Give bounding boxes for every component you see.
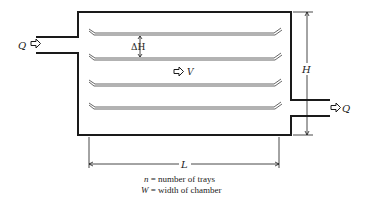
length-label: L <box>180 159 188 170</box>
height-label: H <box>301 64 311 75</box>
tray <box>89 28 282 35</box>
tray <box>89 53 282 60</box>
outflow-indicator: Q <box>331 103 350 114</box>
trays <box>89 28 282 109</box>
inflow-indicator: Q <box>18 39 41 51</box>
velocity-arrow-icon <box>174 67 184 76</box>
caption-line-trays: n = number of trays <box>144 174 216 184</box>
outflow-label: Q <box>342 103 350 114</box>
caption-line-width: W = width of chamber <box>141 185 222 195</box>
tray <box>89 79 282 86</box>
velocity-label: V <box>187 67 195 77</box>
tray-spacing-label: ΔH <box>131 42 145 52</box>
chamber-outline <box>36 12 330 135</box>
tray-spacing-dimension: ΔH <box>131 36 145 57</box>
settling-chamber-diagram: Q ΔH V H Q L n = number o <box>0 0 365 202</box>
velocity-indicator: V <box>174 67 195 77</box>
inflow-label: Q <box>18 40 26 51</box>
outflow-arrow-icon <box>331 103 341 112</box>
caption: n = number of trays W = width of chamber <box>141 174 222 195</box>
inflow-arrow-icon <box>31 39 41 48</box>
tray <box>89 102 282 109</box>
